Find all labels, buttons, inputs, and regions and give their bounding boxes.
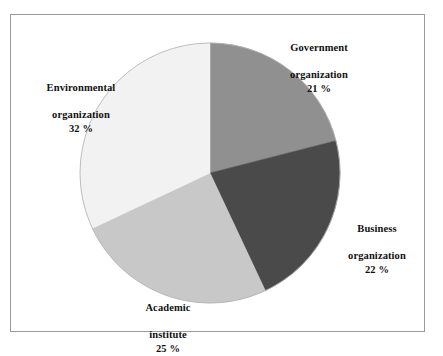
pie-label-academic: Academic institute 25 % [108,288,228,356]
pie-label-government-value: 21 % [252,82,386,95]
pie-label-government: Government organization 21 % [252,28,386,109]
pie-label-environmental-line2: organization [52,109,110,120]
pie-label-academic-line2: institute [149,329,187,340]
pie-label-environmental-value: 32 % [16,122,146,135]
pie-label-government-line1: Government [290,42,348,53]
pie-label-academic-line1: Academic [145,302,190,313]
pie-label-business: Business organization 22 % [318,209,436,290]
pie-label-environmental-line1: Environmental [47,82,116,93]
pie-label-government-line2: organization [290,69,348,80]
pie-label-academic-value: 25 % [108,342,228,355]
pie-label-business-line1: Business [357,223,396,234]
pie-label-business-line2: organization [348,250,406,261]
pie-label-environmental: Environmental organization 32 % [16,68,146,149]
pie-label-business-value: 22 % [318,263,436,276]
